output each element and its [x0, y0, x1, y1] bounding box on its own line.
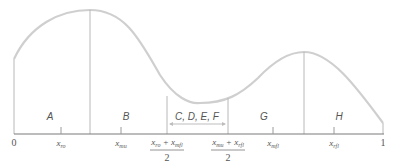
tick-label-xmu: xmu [114, 138, 126, 149]
curve [14, 10, 383, 123]
axis-start-label: 0 [12, 137, 17, 148]
region-label-a: A [46, 111, 54, 122]
fraction-label-2: xmu + xrfl 2 [211, 137, 245, 163]
tick-label-xro: xro [55, 138, 65, 149]
svg-text:2: 2 [226, 152, 231, 163]
fraction-label-1: xro + xmfl 2 [150, 137, 184, 163]
arrow-head-right-icon [222, 122, 226, 126]
svg-text:xro + xmfl: xro + xmfl [150, 137, 183, 148]
arrow-head-left-icon [169, 122, 173, 126]
region-label-g: G [260, 111, 268, 122]
region-diagram: A B C, D, E, F G H 0 1 xro xmu xmfl xrfl… [0, 0, 396, 166]
axis-end-label: 1 [381, 137, 386, 148]
svg-text:2: 2 [165, 152, 170, 163]
tick-label-xrfl: xrfl [328, 138, 339, 149]
region-label-h: H [335, 111, 343, 122]
region-label-b: B [123, 111, 130, 122]
svg-text:xmu + xrfl: xmu + xrfl [211, 137, 244, 148]
region-label-cdef: C, D, E, F [175, 111, 220, 122]
tick-label-xmfl: xmfl [266, 138, 279, 149]
